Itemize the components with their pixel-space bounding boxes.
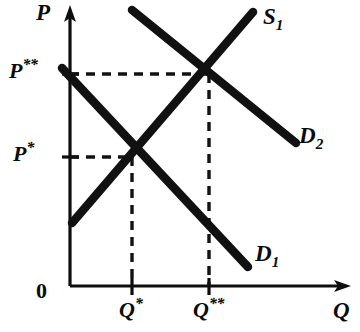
demand-curve-1-label-base: D bbox=[255, 241, 272, 266]
quantity-label-low-base: Q bbox=[119, 297, 135, 322]
price-label-high-base: P bbox=[9, 58, 22, 83]
quantity-label-low: Q* bbox=[119, 296, 143, 321]
price-axis-label: P bbox=[36, 1, 50, 24]
demand-curve-1-label-sub: 1 bbox=[272, 253, 280, 270]
demand-curve-1 bbox=[62, 68, 248, 267]
supply-curve-1-label-base: S bbox=[263, 4, 276, 29]
quantity-label-low-sup: * bbox=[135, 295, 143, 312]
price-label-low: P* bbox=[13, 140, 34, 165]
price-label-high: P** bbox=[9, 57, 38, 82]
demand-curve-2-label-sub: 2 bbox=[316, 135, 324, 152]
diagram-canvas bbox=[0, 0, 360, 332]
supply-curve-1-label-sub: 1 bbox=[276, 16, 284, 33]
quantity-label-high: Q** bbox=[193, 296, 224, 321]
supply-curve-1-label: S1 bbox=[263, 5, 283, 32]
demand-curve-2-label: D2 bbox=[299, 124, 323, 151]
price-label-high-sup: ** bbox=[22, 56, 37, 73]
quantity-label-high-sup: ** bbox=[209, 295, 224, 312]
price-label-low-sup: * bbox=[26, 139, 34, 156]
supply-demand-diagram: P Q 0 P** P* Q* Q** S1 D2 D1 bbox=[0, 0, 360, 332]
price-label-low-base: P bbox=[13, 141, 26, 166]
quantity-label-high-base: Q bbox=[193, 297, 209, 322]
supply-curve-1 bbox=[72, 12, 253, 223]
origin-label: 0 bbox=[36, 280, 47, 302]
demand-curve-1-label: D1 bbox=[255, 242, 279, 269]
demand-curve-2-label-base: D bbox=[299, 123, 316, 148]
quantity-axis-label: Q bbox=[333, 299, 350, 322]
